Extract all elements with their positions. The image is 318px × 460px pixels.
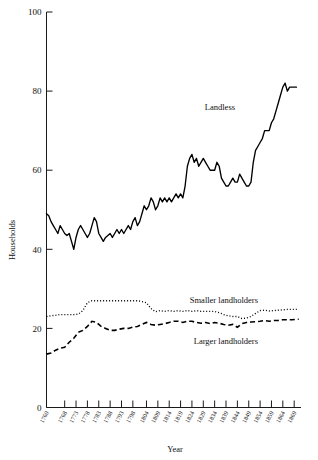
y-tick-label: 80 bbox=[33, 86, 43, 96]
series-annotation-smaller-landholders: Smaller landholders bbox=[190, 295, 258, 305]
y-axis-title: Households bbox=[7, 220, 17, 260]
series-annotation-larger-landholders: Larger landholders bbox=[194, 336, 258, 346]
y-tick-label: 20 bbox=[33, 324, 43, 334]
series-annotation-landless: Landless bbox=[205, 102, 235, 112]
line-chart: 020406080100 176017681773177817831788179… bbox=[0, 0, 318, 460]
x-axis-title: Year bbox=[167, 444, 183, 454]
y-tick-label: 60 bbox=[33, 165, 43, 175]
chart-background bbox=[0, 0, 318, 460]
y-tick-label: 40 bbox=[33, 245, 43, 255]
y-tick-label: 0 bbox=[37, 403, 42, 413]
y-tick-label: 100 bbox=[28, 7, 42, 17]
chart-page: 020406080100 176017681773177817831788179… bbox=[0, 0, 318, 460]
